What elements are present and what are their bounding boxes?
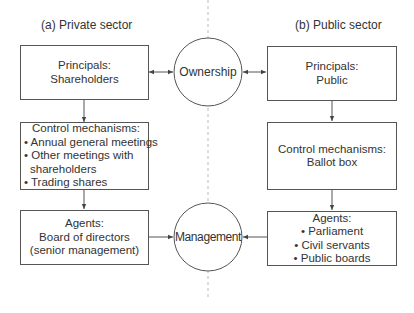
public-control-box: Control mechanisms: Ballot box	[267, 122, 397, 190]
box-heading: Agents:	[313, 212, 352, 226]
bullet-item: • Other meetings with	[24, 149, 134, 163]
box-heading: Control mechanisms:	[24, 122, 148, 136]
box-heading: Control mechanisms:	[278, 143, 386, 157]
private-principals-box: Principals: Shareholders	[20, 45, 149, 100]
box-line: Ballot box	[307, 156, 358, 170]
box-line: Shareholders	[50, 73, 118, 87]
bullet-item: • Parliament	[301, 225, 363, 239]
private-agents-box: Agents: Board of directors (senior manag…	[20, 210, 149, 265]
box-line: (senior management)	[30, 244, 139, 258]
box-heading: Agents:	[65, 217, 104, 231]
public-sector-title: (b) Public sector	[295, 18, 382, 32]
private-control-box: Control mechanisms: • Annual general mee…	[20, 122, 149, 190]
bullet-item: • Annual general meetings	[24, 136, 158, 150]
bullet-item: • Trading shares	[24, 176, 107, 190]
bullet-item: • Civil servants	[294, 239, 370, 253]
bullet-continuation: shareholders	[24, 163, 96, 177]
management-label: Management	[174, 230, 242, 244]
box-line: Public	[316, 74, 347, 88]
public-principals-box: Principals: Public	[267, 46, 397, 101]
ownership-label: Ownership	[174, 65, 242, 79]
box-line: Board of directors	[39, 231, 130, 245]
box-heading: Principals:	[58, 59, 111, 73]
public-agents-box: Agents: • Parliament • Civil servants • …	[267, 211, 397, 266]
private-sector-title: (a) Private sector	[41, 18, 132, 32]
bullet-item: • Public boards	[294, 252, 371, 266]
box-heading: Principals:	[305, 60, 358, 74]
